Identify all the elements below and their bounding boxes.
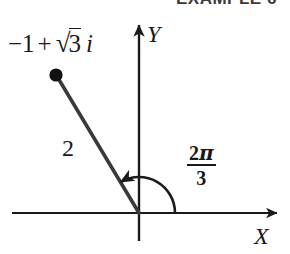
imaginary-unit: i	[81, 30, 93, 57]
modulus-label: 2	[62, 136, 74, 160]
complex-point-marker	[49, 68, 62, 81]
angle-label: 2π 3	[187, 143, 216, 188]
pi-symbol: π	[199, 141, 214, 165]
angle-numerator-coefficient: 2	[189, 142, 199, 164]
angle-numerator: 2π	[187, 143, 216, 166]
radicand: 3	[69, 28, 82, 57]
y-axis-label: Y	[147, 22, 160, 46]
x-axis-label: X	[254, 224, 269, 248]
angle-denominator: 3	[187, 166, 216, 188]
real-sign: −	[8, 30, 22, 57]
square-root-expression: √3	[55, 30, 81, 57]
plus-operator: +	[35, 30, 55, 57]
argand-diagram-figure: EXAMPLE 6 −1+√3i Y X 2	[0, 0, 290, 254]
real-part: 1	[22, 30, 35, 57]
complex-number-label: −1+√3i	[8, 30, 93, 57]
